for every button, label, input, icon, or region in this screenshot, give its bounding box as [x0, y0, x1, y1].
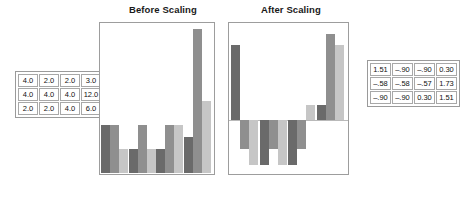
table-cell: 4.0 — [18, 88, 38, 101]
bar — [119, 149, 128, 173]
bar — [147, 149, 156, 173]
plot-area-before — [100, 23, 214, 174]
scaled-data-grid: 1.51 –.90 –.90 0.30 –.58 –.58 –.57 1.73 … — [369, 62, 458, 105]
table-cell: –.90 — [414, 63, 435, 76]
bar — [138, 125, 147, 173]
table-row: –.58 –.58 –.57 1.73 — [370, 77, 457, 90]
bar — [193, 29, 202, 173]
table-cell: 2.0 — [18, 102, 38, 115]
bar — [269, 120, 278, 149]
table-cell: –.90 — [392, 91, 413, 104]
table-cell: 4.0 — [18, 74, 38, 87]
table-row: 2.0 2.0 4.0 6.0 — [18, 102, 101, 115]
bar — [249, 120, 258, 165]
table-row: 4.0 2.0 2.0 3.0 — [18, 74, 101, 87]
plot-area-after — [229, 23, 348, 174]
table-cell: 4.0 — [60, 88, 80, 101]
bar — [297, 120, 306, 148]
bar — [306, 105, 315, 120]
bar — [129, 149, 138, 173]
table-cell: 2.0 — [60, 74, 80, 87]
bar — [288, 120, 297, 165]
bar — [174, 125, 183, 173]
table-row: –.90 –.90 0.30 1.51 — [370, 91, 457, 104]
bar — [317, 105, 326, 120]
table-cell: –.57 — [414, 77, 435, 90]
bar — [231, 45, 240, 120]
table-cell: –.90 — [392, 63, 413, 76]
bar — [101, 125, 110, 173]
table-cell: 2.0 — [39, 74, 59, 87]
table-cell: 3.0 — [81, 74, 101, 87]
table-cell: 4.0 — [39, 88, 59, 101]
bar — [260, 120, 269, 165]
figure-canvas: Before Scaling After Scaling 4.0 2.0 2.0… — [0, 0, 476, 197]
scaled-data-table: 1.51 –.90 –.90 0.30 –.58 –.58 –.57 1.73 … — [367, 60, 460, 107]
bar — [165, 125, 174, 173]
table-cell: 0.30 — [414, 91, 435, 104]
raw-data-table: 4.0 2.0 2.0 3.0 4.0 4.0 4.0 12.0 2.0 2.0… — [15, 71, 104, 118]
table-row: 1.51 –.90 –.90 0.30 — [370, 63, 457, 76]
table-cell: 1.73 — [436, 77, 457, 90]
chart-title-after-scaling: After Scaling — [261, 4, 321, 15]
table-cell: –.58 — [370, 77, 391, 90]
bar — [335, 45, 344, 120]
table-cell: 2.0 — [39, 102, 59, 115]
bar — [156, 149, 165, 173]
bar — [278, 120, 287, 165]
bar — [110, 125, 119, 173]
table-cell: –.58 — [392, 77, 413, 90]
bar — [240, 120, 249, 149]
table-row: 4.0 4.0 4.0 12.0 — [18, 88, 101, 101]
table-cell: 12.0 — [81, 88, 101, 101]
table-cell: 4.0 — [60, 102, 80, 115]
table-cell: 6.0 — [81, 102, 101, 115]
table-cell: –.90 — [370, 91, 391, 104]
bar — [326, 34, 335, 120]
chart-title-before-scaling: Before Scaling — [129, 4, 197, 15]
bar — [184, 137, 193, 173]
raw-data-grid: 4.0 2.0 2.0 3.0 4.0 4.0 4.0 12.0 2.0 2.0… — [17, 73, 102, 116]
table-cell: 0.30 — [436, 63, 457, 76]
table-cell: 1.51 — [370, 63, 391, 76]
chart-panel-before-scaling — [99, 22, 215, 175]
bar — [202, 101, 211, 173]
chart-panel-after-scaling — [228, 22, 349, 175]
table-cell: 1.51 — [436, 91, 457, 104]
